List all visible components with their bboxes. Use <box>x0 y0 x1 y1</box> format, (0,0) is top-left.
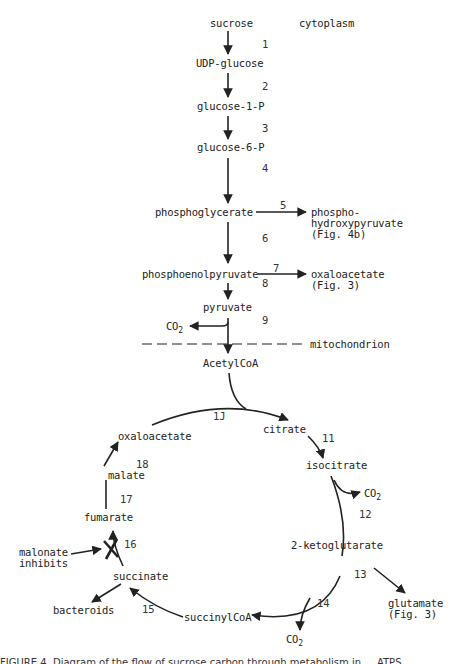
oxaloacetate-cycle-label: oxaloacetate <box>118 431 191 442</box>
phosphoenolpyruvate-label: phosphoenolpyruvate <box>142 269 258 280</box>
step-3: 3 <box>262 122 268 134</box>
mitochondrion-label: mitochondrion <box>310 339 390 350</box>
cytoplasm-label: cytoplasm <box>299 18 354 29</box>
step-9: 9 <box>262 314 268 326</box>
glutamate-fig3-label: glutamate (Fig. 3) <box>388 598 443 620</box>
udp-glucose-label: UDP-glucose <box>196 58 263 69</box>
step-14: 14 <box>317 597 330 609</box>
step-8: 8 <box>262 277 268 289</box>
acetylcoa-label: AcetylCoA <box>203 358 258 369</box>
co2-ketoglutarate-label: CO2 <box>286 634 303 649</box>
oxaloacetate-fig3-label: oxaloacetate (Fig. 3) <box>311 269 384 291</box>
step-17: 17 <box>120 493 133 505</box>
succinylcoa-label: succinylCoA <box>184 612 251 623</box>
fumarate-label: fumarate <box>84 512 133 523</box>
co2-pyruvate-label: CO2 <box>166 321 183 336</box>
step-12: 12 <box>359 508 372 520</box>
pathway-diagram: cytoplasm mitochondrion sucrose UDP-gluc… <box>0 0 464 664</box>
step-18: 18 <box>136 458 149 470</box>
step-1: 1 <box>262 38 268 50</box>
phosphohydroxypyruvate-label: phospho- hydroxypyruvate (Fig. 4b) <box>311 207 403 240</box>
step-7: 7 <box>273 262 279 274</box>
malate-label: malate <box>108 470 145 481</box>
step-15: 15 <box>142 603 155 615</box>
step-13: 13 <box>354 568 367 580</box>
phosphoglycerate-label: phosphoglycerate <box>155 207 253 218</box>
pyruvate-label: pyruvate <box>203 302 252 313</box>
step-11: 11 <box>322 432 335 444</box>
step-16: 16 <box>124 538 137 550</box>
bacteroids-label: bacteroids <box>53 605 114 616</box>
glucose-6-p-label: glucose-6-P <box>197 142 264 153</box>
citrate-label: citrate <box>263 424 306 435</box>
step-10: 1J <box>213 410 226 422</box>
2-ketoglutarate-label: 2-ketoglutarate <box>291 540 383 551</box>
isocitrate-label: isocitrate <box>306 460 367 471</box>
glucose-1-p-label: glucose-1-P <box>197 101 264 112</box>
step-6: 6 <box>262 232 268 244</box>
malonate-inhibits-label: malonate inhibits <box>19 547 68 569</box>
step-5: 5 <box>280 199 286 211</box>
step-4: 4 <box>262 162 268 174</box>
co2-isocitrate-label: CO2 <box>364 488 381 503</box>
sucrose-label: sucrose <box>210 18 253 29</box>
step-2: 2 <box>262 80 268 92</box>
figure-caption: FIGURE 4. Diagram of the flow of sucrose… <box>0 657 464 664</box>
succinate-label: succinate <box>113 571 168 582</box>
